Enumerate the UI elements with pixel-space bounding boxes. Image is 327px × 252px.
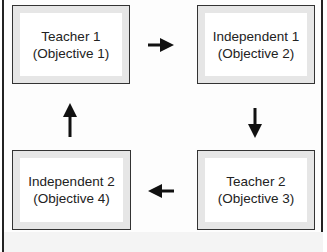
node-subtitle: (Objective 1) <box>33 45 110 62</box>
node-teacher-2: Teacher 2 (Objective 3) <box>197 150 315 230</box>
arrow-down-icon <box>248 108 262 138</box>
node-title: Independent 2 <box>28 173 114 190</box>
node-independent-2: Independent 2 (Objective 4) <box>12 150 131 230</box>
arrow-right-icon <box>148 38 174 52</box>
node-title: Independent 1 <box>213 28 299 45</box>
node-teacher-1: Teacher 1 (Objective 1) <box>12 5 130 84</box>
arrow-left-icon <box>148 184 174 198</box>
arrow-up-icon <box>63 103 77 137</box>
node-title: Teacher 1 <box>41 28 100 45</box>
node-subtitle: (Objective 2) <box>218 45 295 62</box>
node-title: Teacher 2 <box>226 173 285 190</box>
bottom-strip <box>4 232 323 252</box>
node-subtitle: (Objective 3) <box>218 190 295 207</box>
node-subtitle: (Objective 4) <box>33 190 110 207</box>
node-independent-1: Independent 1 (Objective 2) <box>197 5 315 84</box>
